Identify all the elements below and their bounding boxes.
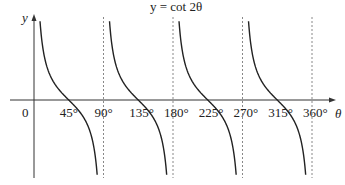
x-tick-label: 360° [303, 105, 328, 120]
y-axis-label: y [20, 10, 28, 25]
cot-curve-branch [249, 21, 306, 175]
x-axis-arrow-icon [329, 98, 336, 103]
cot-curve-branch [179, 21, 236, 175]
cot-curve-branch [40, 21, 97, 175]
x-tick-label: 180° [164, 105, 189, 120]
x-axis-label: θ [335, 106, 342, 121]
x-tick-label: 270° [234, 105, 259, 120]
y-axis-arrow-icon [32, 14, 37, 21]
chart-title: y = cot 2θ [150, 0, 202, 14]
x-tick-labels: 45°90°135°180°225°270°315°360° [60, 105, 328, 120]
origin-label: 0 [22, 105, 29, 120]
x-tick-label: 90° [95, 105, 113, 120]
cot-2theta-graph: y = cot 2θ y θ 0 45°90°135°180°225°270°3… [0, 0, 345, 185]
cot-curve-branch [110, 21, 167, 175]
